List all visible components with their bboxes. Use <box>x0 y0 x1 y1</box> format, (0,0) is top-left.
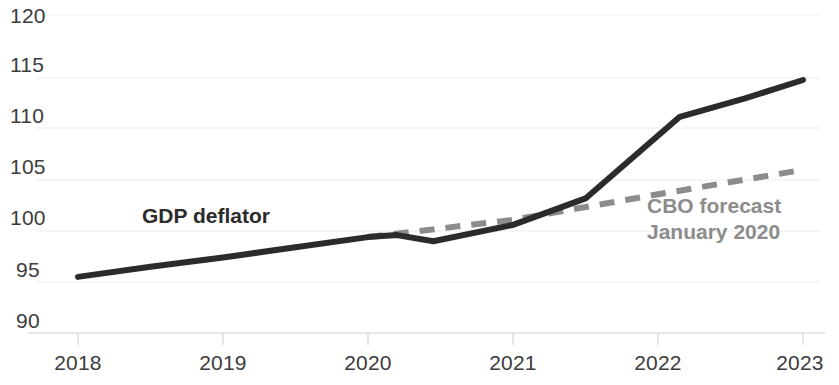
y-tick-label-100: 100 <box>10 207 46 228</box>
x-tick-label-2022: 2022 <box>634 352 682 373</box>
y-tick-label-110: 110 <box>10 105 44 126</box>
x-tick-label-2019: 2019 <box>199 352 247 373</box>
x-tick-label-2021: 2021 <box>489 352 537 373</box>
series-label-cbo-forecast: CBO forecast January 2020 <box>647 193 781 244</box>
series-label-cbo-forecast-line1: CBO forecast <box>647 193 781 219</box>
y-tick-label-115: 115 <box>10 54 44 75</box>
series-line-gdp-deflator <box>78 80 803 277</box>
x-tick-label-2020: 2020 <box>344 352 392 373</box>
series-label-cbo-forecast-line2: January 2020 <box>647 219 781 245</box>
x-tick-label-2018: 2018 <box>54 352 102 373</box>
x-tick-label-2023: 2023 <box>776 352 824 373</box>
y-tick-label-95: 95 <box>16 259 40 280</box>
x-axis-ticks <box>78 333 803 345</box>
y-tick-label-120: 120 <box>10 5 46 26</box>
series-label-gdp-deflator: GDP deflator <box>142 203 270 229</box>
y-tick-label-105: 105 <box>10 156 46 177</box>
y-tick-label-90: 90 <box>16 310 40 331</box>
gdp-deflator-chart: 120 115 110 105 100 95 90 2018 2019 2020… <box>0 0 839 385</box>
